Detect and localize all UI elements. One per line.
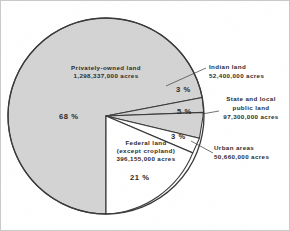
legend-urban-areas-acres: 50,660,000 acres — [214, 153, 269, 162]
legend-urban-areas-name: Urban areas — [214, 144, 269, 153]
legend-indian-land-acres: 52,400,000 acres — [209, 72, 264, 81]
pie-chart-figure: Privately-owned land 1,298,337,000 acres… — [0, 0, 290, 231]
slice-percent-urban-areas: 3 % — [171, 132, 186, 141]
legend-state-and-local-name-line2: public land — [215, 104, 287, 113]
slice-percent-federal-land: 21 % — [130, 173, 150, 182]
legend-state-and-local-acres: 97,300,000 acres — [215, 113, 287, 122]
legend-item-state-and-local-public-land: State and local public land 97,300,000 a… — [215, 95, 287, 122]
slice-label-federal-land: Federal land (except cropland) 396,155,0… — [98, 139, 194, 162]
legend-state-and-local-name-line1: State and local — [215, 95, 287, 104]
slice-percent-privately-owned-land: 68 % — [59, 112, 79, 121]
slice-label-privately-owned-name: Privately-owned land — [51, 64, 161, 72]
slice-label-federal-name-line2: (except cropland) — [98, 147, 194, 155]
slice-label-federal-acres: 396,155,000 acres — [98, 155, 194, 163]
legend-item-urban-areas: Urban areas 50,660,000 acres — [214, 144, 269, 162]
slice-percent-indian-land: 3 % — [176, 85, 191, 94]
slice-label-privately-owned-acres: 1,298,337,000 acres — [51, 72, 161, 80]
legend-indian-land-name: Indian land — [209, 63, 264, 72]
slice-percent-state-and-local-public-land: 5 % — [177, 107, 192, 116]
legend-item-indian-land: Indian land 52,400,000 acres — [209, 63, 264, 81]
slice-label-privately-owned-land: Privately-owned land 1,298,337,000 acres — [51, 64, 161, 80]
